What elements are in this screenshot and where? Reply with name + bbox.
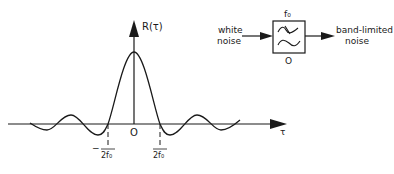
diagram-canvas: τ R(τ) O − 2f₀ 2f₀ white noise f₀ O band…: [0, 0, 394, 174]
tick-left-sign: −: [92, 143, 100, 153]
filter-bottom-label: O: [285, 56, 292, 66]
tick-right-denominator: 2f₀: [153, 151, 164, 160]
output-label-noise: noise: [345, 36, 369, 46]
autocorrelation-curve: [30, 52, 240, 135]
filter-box: [273, 21, 305, 53]
filter-top-label: f₀: [284, 9, 291, 19]
input-label-white: white: [218, 25, 243, 35]
input-label-noise: noise: [217, 36, 241, 46]
r-axis-label: R(τ): [142, 21, 163, 32]
output-label-band-limited: band-limited: [336, 25, 393, 35]
tau-axis-label: τ: [280, 127, 285, 137]
origin-label: O: [130, 127, 138, 138]
r-axis-arrow-icon: [129, 20, 139, 37]
output-arrow-icon: [321, 32, 335, 40]
tick-left-denominator: 2f₀: [101, 151, 112, 160]
input-arrow-icon: [260, 32, 273, 40]
